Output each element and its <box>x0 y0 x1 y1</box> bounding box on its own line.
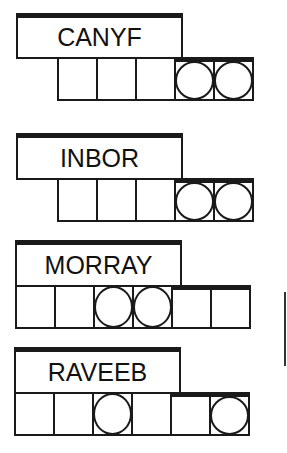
answer-cell-circled[interactable] <box>92 392 133 436</box>
answer-cell[interactable] <box>53 392 94 436</box>
answer-cell-circled[interactable] <box>174 178 215 222</box>
answer-cell-circled[interactable] <box>209 392 250 436</box>
answer-cells <box>57 57 254 101</box>
answer-cell-circled[interactable] <box>213 178 254 222</box>
answer-cell[interactable] <box>96 57 137 101</box>
answer-cell-circled[interactable] <box>213 57 254 101</box>
scrambled-word-label: MORRAY <box>15 240 182 287</box>
answer-cell[interactable] <box>210 285 251 329</box>
answer-cell[interactable] <box>135 178 176 222</box>
answer-cell[interactable] <box>170 392 211 436</box>
answer-cell[interactable] <box>135 57 176 101</box>
answer-cells <box>14 392 250 436</box>
answer-cells <box>15 285 251 329</box>
scrambled-word: CANYF <box>57 23 142 52</box>
scrambled-word-label: INBOR <box>16 133 183 180</box>
answer-cell[interactable] <box>171 285 212 329</box>
answer-cell[interactable] <box>131 392 172 436</box>
answer-cell[interactable] <box>54 285 95 329</box>
scrambled-word-label: RAVEEB <box>14 347 181 394</box>
scrambled-word: MORRAY <box>45 251 153 280</box>
scrambled-word-label: CANYF <box>16 13 183 59</box>
scrambled-word: RAVEEB <box>48 358 148 387</box>
answer-cell[interactable] <box>96 178 137 222</box>
answer-cell[interactable] <box>57 57 98 101</box>
answer-cell[interactable] <box>57 178 98 222</box>
answer-cell[interactable] <box>15 285 56 329</box>
answer-cell-circled[interactable] <box>132 285 173 329</box>
answer-cells <box>57 178 254 222</box>
answer-cell-circled[interactable] <box>93 285 134 329</box>
scrambled-word: INBOR <box>60 144 139 173</box>
answer-cell[interactable] <box>14 392 55 436</box>
answer-cell-circled[interactable] <box>174 57 215 101</box>
page-edge-line <box>284 292 286 366</box>
